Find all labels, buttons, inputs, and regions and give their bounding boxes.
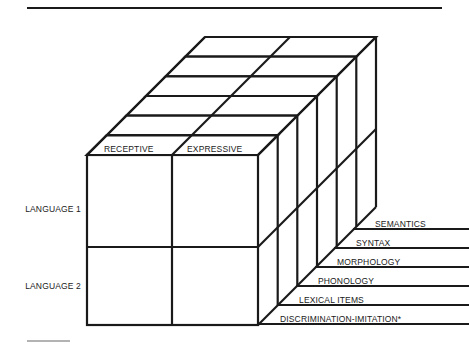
row-label-language-1: LANGUAGE 1 (0, 205, 81, 214)
depth-label-syntax: SYNTAX (356, 239, 390, 248)
front-column-label-expressive: EXPRESSIVE (187, 145, 242, 154)
depth-label-semantics: SEMANTICS (375, 220, 426, 229)
depth-label-morphology: MORPHOLOGY (337, 258, 400, 267)
row-label-language-2: LANGUAGE 2 (0, 282, 81, 291)
cube-diagram-svg (0, 0, 469, 350)
front-face (87, 155, 258, 325)
depth-label-phonology: PHONOLOGY (318, 277, 374, 286)
depth-label-lexical-items: LEXICAL ITEMS (299, 296, 364, 305)
figure-container: RECEPTIVE EXPRESSIVE LANGUAGE 1 LANGUAGE… (0, 0, 469, 350)
depth-label-discrimination-imitation: DISCRIMINATION-IMITATION* (280, 315, 401, 324)
front-column-label-receptive: RECEPTIVE (104, 145, 154, 154)
